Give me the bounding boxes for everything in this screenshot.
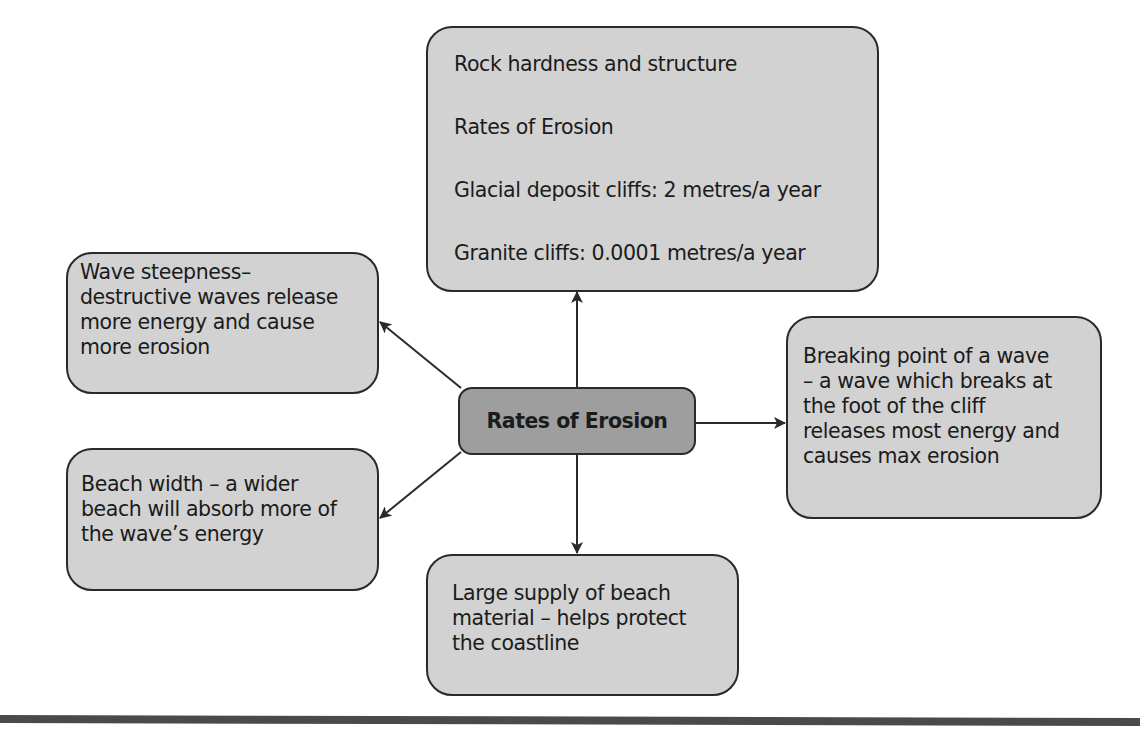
node-breaking-point: Breaking point of a wave – a wave which … <box>786 316 1102 519</box>
node-text-line: releases most energy and <box>803 419 1100 444</box>
arrow-to-left-bottom <box>380 452 461 518</box>
node-text-line: beach will absorb more of <box>81 497 377 522</box>
node-text-line: causes max erosion <box>803 444 1100 469</box>
node-text-line: Rates of Erosion <box>454 115 877 140</box>
node-text-line: Rock hardness and structure <box>454 52 877 77</box>
central-node-label: Rates of Erosion <box>487 409 668 433</box>
arrow-to-left-top <box>380 322 461 388</box>
node-beach-width: Beach width – a wider beach will absorb … <box>66 448 379 591</box>
node-text-line: the wave’s energy <box>81 522 377 547</box>
node-beach-material: Large supply of beach material – helps p… <box>426 554 739 696</box>
node-text-line: Granite cliffs: 0.0001 metres/a year <box>454 241 877 266</box>
node-text-line: Wave steepness– <box>80 260 377 285</box>
node-text-line: Breaking point of a wave <box>803 344 1100 369</box>
node-text-line: Large supply of beach <box>452 581 737 606</box>
node-text-line: the foot of the cliff <box>803 394 1100 419</box>
node-text-line: the coastline <box>452 631 737 656</box>
node-text-line: more erosion <box>80 335 377 360</box>
node-text-line: destructive waves release <box>80 285 377 310</box>
node-text-line: Beach width – a wider <box>81 472 377 497</box>
node-text-line: – a wave which breaks at <box>803 369 1100 394</box>
central-node-rates-of-erosion: Rates of Erosion <box>458 387 696 455</box>
node-wave-steepness: Wave steepness– destructive waves releas… <box>66 252 379 394</box>
node-text-line: material – helps protect <box>452 606 737 631</box>
node-text-line: more energy and cause <box>80 310 377 335</box>
node-text-line: Glacial deposit cliffs: 2 metres/a year <box>454 178 877 203</box>
node-rock-hardness: Rock hardness and structure Rates of Ero… <box>426 26 879 292</box>
